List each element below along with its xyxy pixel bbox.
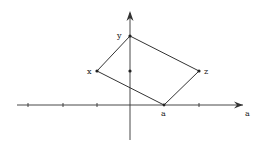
- point-z-marker: [197, 69, 200, 72]
- parallelogram-yzax: [97, 36, 199, 105]
- label-a: a: [161, 109, 166, 118]
- diagram-canvas: y x z a a: [0, 0, 262, 150]
- point-y-marker: [128, 34, 131, 37]
- label-z: z: [204, 67, 208, 76]
- center-dot: [128, 69, 131, 72]
- label-y: y: [116, 31, 122, 40]
- label-x: x: [87, 67, 92, 76]
- horizontal-axis-label: a: [245, 109, 250, 118]
- point-a-marker: [163, 104, 166, 107]
- point-x-marker: [95, 69, 98, 72]
